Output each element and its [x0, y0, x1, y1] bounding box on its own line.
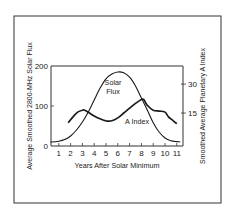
y-axis-label-right: Smoothed Average Planetary A Index	[199, 48, 207, 164]
solar-flux-label-line2: Flux	[106, 87, 120, 96]
x-tick-label: 5	[104, 149, 109, 158]
x-tick-label: 3	[80, 149, 85, 158]
a-index-label: A Index	[125, 117, 149, 126]
y-tick-label-left: 200	[35, 62, 49, 71]
y-axis-label-left: Average Smoothed 2800-MHz Solar Flux	[26, 42, 34, 170]
x-tick-label: 1	[57, 149, 62, 158]
x-tick-label: 7	[127, 149, 132, 158]
x-axis-label: Years After Solar Minimum	[75, 161, 160, 170]
x-tick-label: 8	[139, 149, 144, 158]
solar-flux-label: Solar	[105, 78, 122, 87]
x-tick-label: 11	[173, 149, 182, 158]
y-tick-label-left: 0	[44, 142, 49, 151]
x-tick-label: 2	[68, 149, 73, 158]
ticks: 123456789101101002001530	[35, 62, 198, 158]
y-tick-label-left: 100	[35, 102, 49, 111]
a-index-line	[68, 99, 177, 124]
x-tick-label: 10	[161, 149, 170, 158]
x-tick-label: 4	[92, 149, 97, 158]
chart: 123456789101101002001530 Solar Flux A In…	[0, 0, 229, 212]
y-tick-label-right: 30	[188, 80, 197, 89]
x-tick-label: 9	[151, 149, 156, 158]
x-tick-label: 6	[116, 149, 121, 158]
y-tick-label-right: 15	[188, 109, 197, 118]
